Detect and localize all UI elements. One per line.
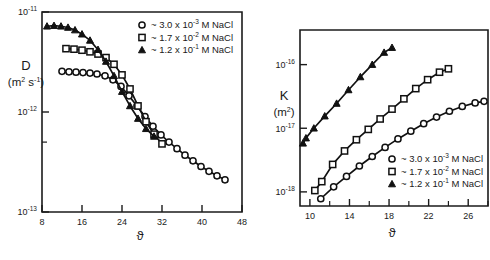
marker-filled-triangle — [79, 31, 86, 37]
marker-open-circle — [408, 128, 414, 134]
figure-root: 10-1310-1210-11 81624324048 D (m2 s-1) ϑ… — [0, 0, 490, 260]
marker-open-square — [312, 187, 318, 193]
marker-open-circle — [343, 173, 349, 179]
right-permeability-panel: 10-1810-1710-16 1014182226 K (m2) ϑ ~ 3.… — [252, 0, 490, 260]
right-x-tick-labels: 1014182226 — [305, 211, 473, 221]
marker-open-square — [330, 161, 336, 167]
marker-open-circle — [174, 146, 180, 152]
x-tick-label: 26 — [463, 211, 473, 221]
marker-open-circle — [331, 184, 337, 190]
x-tick-label: 18 — [384, 211, 394, 221]
marker-open-square — [143, 119, 149, 125]
marker-open-square — [159, 141, 165, 147]
legend-entry-label: ~ 1.2 x 10-1 M NaCl — [401, 177, 483, 189]
marker-open-square — [111, 61, 117, 67]
x-tick-label: 22 — [424, 211, 434, 221]
series-filled-triangle — [299, 44, 395, 146]
marker-filled-triangle — [381, 49, 388, 55]
legend-entry-label: ~ 1.7 x 10-2 M NaCl — [151, 31, 233, 43]
marker-open-circle — [318, 196, 324, 202]
marker-open-circle — [126, 93, 132, 99]
marker-open-square — [353, 137, 359, 143]
marker-open-circle — [102, 73, 108, 79]
marker-open-circle — [80, 69, 86, 75]
marker-open-circle — [158, 132, 164, 138]
marker-open-square — [127, 86, 133, 92]
marker-open-circle — [421, 121, 427, 127]
right-y-tick-labels: 10-1810-1710-16 — [276, 58, 296, 197]
left-y-tick-labels: 10-1310-1210-11 — [18, 5, 38, 217]
marker-open-circle — [481, 98, 487, 104]
marker-filled-triangle — [389, 180, 396, 186]
right-y-axis-units: (m2) — [273, 106, 294, 118]
left-legend: ~ 3.0 x 10-3 M NaCl~ 1.7 x 10-2 M NaCl~ … — [139, 18, 234, 55]
marker-filled-triangle — [139, 46, 146, 52]
marker-open-square — [401, 96, 407, 102]
marker-open-circle — [222, 177, 228, 183]
marker-open-square — [87, 49, 93, 55]
left-plot-svg: 10-1310-1210-11 81624324048 D (m2 s-1) ϑ… — [0, 0, 252, 260]
marker-open-square — [341, 148, 347, 154]
marker-open-square — [377, 116, 383, 122]
marker-open-circle — [369, 153, 375, 159]
marker-open-circle — [395, 136, 401, 142]
marker-filled-triangle — [111, 72, 118, 78]
marker-open-circle — [182, 152, 188, 158]
marker-filled-triangle — [127, 102, 134, 108]
right-plot-svg: 10-1810-1710-16 1014182226 K (m2) ϑ ~ 3.… — [252, 0, 490, 260]
marker-filled-triangle — [389, 44, 396, 50]
x-tick-label: 24 — [117, 217, 127, 227]
marker-open-circle — [459, 103, 465, 109]
marker-open-circle — [446, 108, 452, 114]
marker-open-square — [436, 69, 442, 75]
marker-open-square — [413, 85, 419, 91]
right-y-axis-title: K — [280, 88, 289, 103]
left-y-ticks — [42, 12, 49, 212]
y-tick-label: 10-12 — [18, 105, 38, 117]
marker-open-circle — [139, 22, 145, 28]
right-y-ticks — [300, 65, 307, 192]
marker-open-circle — [198, 163, 204, 169]
marker-open-circle — [87, 70, 93, 76]
marker-open-circle — [382, 144, 388, 150]
marker-open-circle — [472, 100, 478, 106]
x-tick-label: 32 — [157, 217, 167, 227]
marker-open-square — [139, 34, 145, 40]
left-diffusion-panel: 10-1310-1210-11 81624324048 D (m2 s-1) ϑ… — [0, 0, 252, 260]
y-tick-label: 10-18 — [276, 185, 296, 197]
right-legend: ~ 3.0 x 10-3 M NaCl~ 1.7 x 10-2 M NaCl~ … — [389, 152, 484, 189]
marker-open-circle — [356, 163, 362, 169]
x-tick-label: 10 — [305, 211, 315, 221]
y-tick-label: 10-17 — [276, 122, 296, 134]
marker-open-square — [119, 72, 125, 78]
left-x-ticks — [42, 205, 242, 212]
marker-open-square — [79, 47, 85, 53]
x-tick-label: 14 — [344, 211, 354, 221]
marker-open-square — [365, 126, 371, 132]
x-tick-label: 16 — [77, 217, 87, 227]
y-tick-label: 10-13 — [18, 205, 38, 217]
legend-entry-label: ~ 1.2 x 10-1 M NaCl — [151, 43, 233, 55]
marker-open-square — [389, 168, 395, 174]
marker-open-circle — [214, 173, 220, 179]
marker-open-square — [71, 46, 77, 52]
marker-open-square — [319, 179, 325, 185]
marker-open-square — [63, 46, 69, 52]
legend-entry-label: ~ 3.0 x 10-3 M NaCl — [401, 152, 483, 164]
x-tick-label: 40 — [197, 217, 207, 227]
marker-open-circle — [94, 71, 100, 77]
left-y-axis-units: (m2 s-1) — [8, 76, 45, 88]
marker-open-square — [425, 77, 431, 83]
marker-open-circle — [166, 139, 172, 145]
marker-open-circle — [66, 69, 72, 75]
x-tick-label: 8 — [39, 217, 44, 227]
right-x-ticks — [310, 199, 488, 206]
marker-open-circle — [190, 158, 196, 164]
y-tick-label: 10-16 — [276, 58, 296, 70]
legend-entry-label: ~ 3.0 x 10-3 M NaCl — [151, 18, 233, 30]
left-y-axis-title: D — [21, 58, 30, 73]
marker-open-circle — [206, 168, 212, 174]
marker-open-square — [389, 106, 395, 112]
y-tick-label: 10-11 — [18, 5, 37, 17]
marker-open-circle — [73, 69, 79, 75]
